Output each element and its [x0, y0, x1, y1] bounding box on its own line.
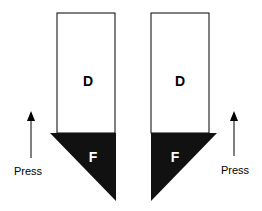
- right-key-lower-label: F: [171, 149, 180, 165]
- right-press-arrow: Press: [221, 111, 250, 176]
- right-key-upper-label: D: [175, 73, 185, 89]
- left-key-lower-label: F: [89, 149, 98, 165]
- left-key-upper-label: D: [83, 73, 93, 89]
- left-press-arrow: Press: [14, 111, 43, 177]
- right-press-label: Press: [221, 164, 250, 176]
- right-key-lower-triangle: [151, 133, 217, 201]
- left-key-lower-triangle: [50, 133, 116, 201]
- right-key: D F: [151, 13, 217, 201]
- piano-key-diagram: D F Press D F Press: [0, 0, 262, 211]
- left-key: D F: [50, 13, 116, 201]
- left-press-label: Press: [14, 165, 43, 177]
